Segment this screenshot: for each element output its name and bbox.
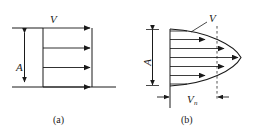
velocity-arrows-b (170, 31, 238, 84)
mean-velocity-symbol: V (187, 93, 194, 105)
velocity-label-a: V (50, 14, 57, 25)
caption-b: (b) (181, 115, 193, 125)
panel-uniform-profile: V A (a) (0, 0, 131, 139)
velocity-arrows-a (43, 28, 90, 87)
leader-line-V-b (191, 22, 207, 32)
figure-root: V A (a) (0, 0, 263, 139)
panel-parabolic-profile: V A Vn (b) (131, 0, 263, 139)
panel-b-drawing (131, 0, 263, 139)
mean-velocity-label-b: Vn (187, 94, 197, 105)
height-label-b: A (142, 59, 153, 66)
caption-a: (a) (53, 115, 64, 125)
height-label-a: A (16, 62, 23, 73)
velocity-label-b: V (209, 13, 216, 24)
mean-velocity-subscript: n (194, 99, 198, 107)
